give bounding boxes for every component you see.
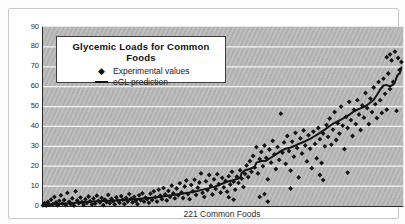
y-tick-label: 20	[17, 161, 39, 170]
legend-label-prediction: eGL prediction	[113, 77, 168, 88]
y-tick-label: 0	[17, 201, 39, 210]
y-tick-label: 10	[17, 181, 39, 190]
diamond-marker-icon: ◆	[95, 67, 108, 75]
y-tick-label: 50	[17, 101, 39, 110]
y-tick-label: 90	[17, 22, 39, 31]
chart-card: 0102030405060708090 221 Common Foods Gly…	[8, 8, 399, 219]
legend-entry-prediction: eGL prediction	[95, 77, 225, 88]
y-tick-label: 70	[17, 61, 39, 70]
y-tick-label: 60	[17, 81, 39, 90]
line-marker-icon	[95, 81, 108, 84]
y-tick-label: 30	[17, 141, 39, 150]
legend-box: Glycemic Loads for Common Foods ◆ Experi…	[56, 36, 226, 83]
y-tick-label: 80	[17, 41, 39, 50]
y-tick-label: 40	[17, 121, 39, 130]
legend-entry-experimental: ◆ Experimental values	[95, 66, 225, 77]
legend-label-experimental: Experimental values	[113, 66, 190, 77]
chart-title: Glycemic Loads for Common Foods	[57, 41, 225, 63]
x-axis-label: 221 Common Foods	[42, 209, 402, 219]
